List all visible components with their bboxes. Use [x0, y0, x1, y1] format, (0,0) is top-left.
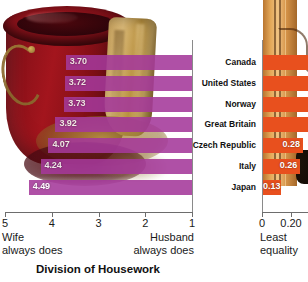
bar-row: 0.26 [258, 159, 308, 174]
bar-value-label: 4.49 [33, 181, 50, 191]
orange-bar-group: 0.280.260.13 [258, 0, 308, 212]
husband-caption: Husband always does [110, 231, 194, 257]
bar-value-label: 3.70 [70, 56, 87, 66]
country-label: Czech Republic [193, 138, 256, 153]
least-equality-value-label: 0.28 [283, 139, 301, 149]
bar-value-label: 4.24 [45, 160, 62, 170]
purple-bar-group: 3.703.723.733.924.074.244.49 [0, 0, 196, 212]
least-equality-bar [262, 76, 308, 91]
country-label: Great Britain [205, 117, 257, 132]
least-equality-bar [262, 117, 308, 132]
bar-row: 0.13 [258, 180, 308, 195]
least-equality-bar [262, 55, 308, 70]
housework-bar: 3.73 [64, 97, 192, 112]
least-equality-panel: 0.280.260.13 00.20 Least equality [258, 0, 308, 212]
housework-bar: 4.07 [48, 138, 192, 153]
housework-bar: 3.70 [66, 55, 192, 70]
axis-tick-label: 5 [0, 217, 16, 229]
least-equality-line1: Least [260, 231, 308, 244]
bar-row [258, 76, 308, 91]
axis-tick-label: 4 [41, 217, 63, 229]
bar-row: 4.07 [0, 138, 196, 153]
bar-row: 3.73 [0, 97, 196, 112]
least-equality-value-label: 0.26 [280, 160, 298, 170]
axis-tick-label: 1 [181, 217, 203, 229]
axis-tick-label: 2 [134, 217, 156, 229]
country-label: United States [202, 76, 256, 91]
country-label-group: CanadaUnited StatesNorwayGreat BritainCz… [198, 0, 258, 212]
bar-row: 4.24 [0, 159, 196, 174]
right-axis-line [262, 212, 308, 213]
bar-value-label: 3.92 [59, 118, 76, 128]
bar-row: 4.49 [0, 180, 196, 195]
axis-tick-label: 3 [88, 217, 110, 229]
bar-row: 3.92 [0, 117, 196, 132]
right-panel-baseline [262, 40, 263, 212]
housework-bar: 4.49 [29, 180, 192, 195]
axis-tick-label: 0.20 [280, 217, 302, 229]
least-equality-value-label: 0.13 [263, 181, 281, 191]
left-panel-baseline [192, 40, 193, 212]
least-equality-line2: equality [260, 244, 308, 257]
country-label: Canada [225, 55, 256, 70]
bar-value-label: 3.72 [69, 77, 86, 87]
country-label: Norway [225, 97, 256, 112]
bar-row [258, 97, 308, 112]
axis-tick-label: 0 [251, 217, 273, 229]
housework-chart-figure: 3.703.723.733.924.074.244.49 54321 Wife … [0, 0, 308, 282]
husband-caption-line1: Husband [110, 231, 194, 244]
bar-row [258, 117, 308, 132]
housework-bar: 3.72 [65, 76, 192, 91]
wife-caption: Wife always does [2, 231, 82, 257]
country-label: Japan [231, 180, 256, 195]
bar-row [258, 55, 308, 70]
least-equality-caption: Least equality [260, 231, 308, 257]
division-of-housework-panel: 3.703.723.733.924.074.244.49 54321 Wife … [0, 0, 196, 212]
bar-row: 3.70 [0, 55, 196, 70]
bar-row: 0.28 [258, 138, 308, 153]
housework-bar: 4.24 [41, 159, 192, 174]
husband-caption-line2: always does [110, 244, 194, 257]
housework-bar: 3.92 [55, 117, 192, 132]
bar-value-label: 4.07 [52, 139, 69, 149]
bar-value-label: 3.73 [68, 98, 85, 108]
wife-caption-line1: Wife [2, 231, 82, 244]
country-label: Italy [239, 159, 256, 174]
wife-caption-line2: always does [2, 244, 82, 257]
bar-row: 3.72 [0, 76, 196, 91]
least-equality-bar [262, 97, 308, 112]
chart-title: Division of Housework [0, 263, 196, 275]
